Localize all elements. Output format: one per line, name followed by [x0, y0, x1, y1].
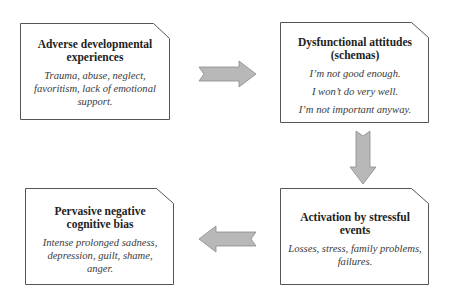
box-activation: Activation by stressful events Losses, s…	[282, 211, 428, 268]
schema-line-3: I’m not important anyway.	[288, 103, 422, 116]
box-activation-desc: Losses, stress, family problems, failure…	[288, 242, 422, 268]
flow-diagram: Adverse developmental experiences Trauma…	[0, 0, 455, 301]
box-dysfunctional-title: Dysfunctional attitudes (schemas)	[288, 36, 422, 62]
arrow-left-icon	[199, 226, 256, 252]
box-adverse-desc: Trauma, abuse, neglect, favoritism, lack…	[28, 69, 162, 108]
schema-line-2: I won’t do very well.	[288, 85, 422, 98]
schema-line-1: I’m not good enough.	[288, 67, 422, 80]
arrow-down-icon	[350, 131, 376, 184]
box-adverse: Adverse developmental experiences Trauma…	[22, 38, 168, 108]
box-activation-title: Activation by stressful events	[288, 211, 422, 237]
box-pervasive-desc: Intense prolonged sadness, depression, g…	[33, 236, 167, 275]
box-pervasive-title: Pervasive negative cognitive bias	[33, 205, 167, 231]
box-pervasive: Pervasive negative cognitive bias Intens…	[27, 205, 173, 275]
arrow-right-icon	[199, 61, 256, 87]
box-adverse-title: Adverse developmental experiences	[28, 38, 162, 64]
box-dysfunctional: Dysfunctional attitudes (schemas) I’m no…	[282, 36, 428, 121]
